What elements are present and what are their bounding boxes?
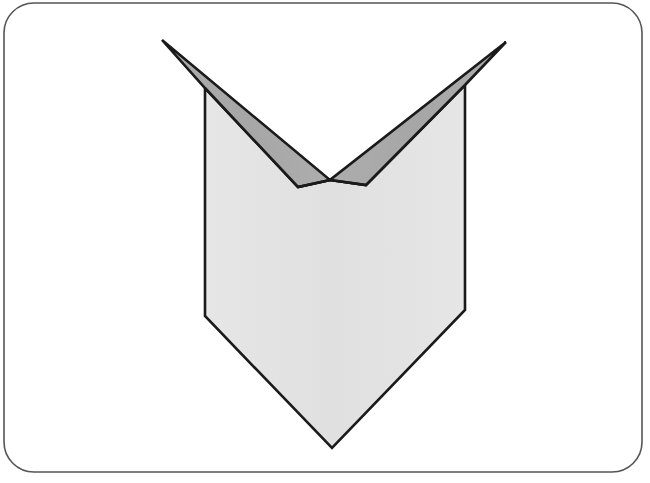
figure-canvas <box>0 0 650 483</box>
screenshot-stage <box>0 0 650 483</box>
